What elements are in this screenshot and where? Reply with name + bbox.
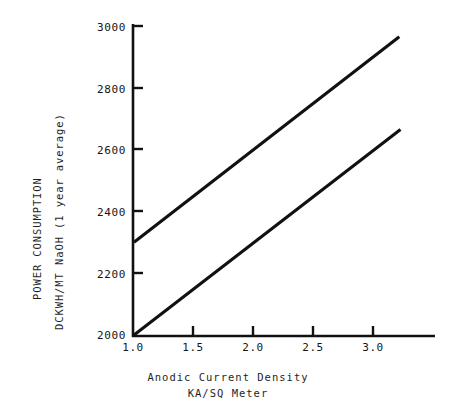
x-axis-caption-line-1: Anodic Current Density — [0, 371, 456, 383]
x-axis-caption-line-2: KA/SQ Meter — [0, 387, 456, 399]
plot-area — [0, 0, 456, 412]
data-line-lower — [134, 130, 400, 335]
chart-figure: POWER CONSUMPTION DCKWH/MT NaOH (1 year … — [0, 0, 456, 412]
data-line-upper — [134, 37, 399, 242]
